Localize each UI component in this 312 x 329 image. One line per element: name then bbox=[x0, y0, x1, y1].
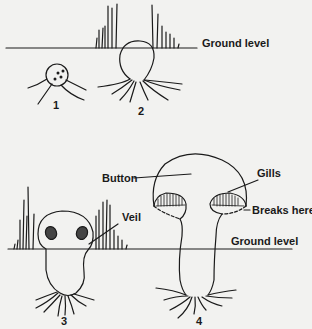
stage-2-pinhead bbox=[98, 41, 182, 102]
grass-right-top bbox=[152, 5, 179, 48]
grass-left-top bbox=[96, 4, 117, 48]
mushroom-development-diagram: Ground level Ground level Button Gills V… bbox=[0, 0, 312, 329]
button-label: Button bbox=[102, 173, 137, 184]
ground-level-label-bottom: Ground level bbox=[231, 236, 298, 247]
stage-number-4: 4 bbox=[196, 316, 202, 327]
grass-left-bottom bbox=[14, 187, 34, 249]
stage-1-primordium bbox=[28, 64, 86, 104]
button-leader-line bbox=[134, 174, 191, 178]
ground-level-label-top: Ground level bbox=[202, 38, 269, 49]
gills-leader-line bbox=[228, 180, 258, 192]
stage-3-young-fruiting-body bbox=[36, 211, 94, 316]
stage-number-1: 1 bbox=[53, 100, 59, 111]
gills-label: Gills bbox=[257, 168, 281, 179]
stage-number-2: 2 bbox=[138, 106, 144, 117]
diagram-drawing bbox=[0, 0, 312, 329]
breaks-here-label: Breaks here bbox=[252, 205, 312, 216]
grass-right-bottom bbox=[96, 200, 127, 249]
stage-number-3: 3 bbox=[61, 316, 67, 327]
veil-label: Veil bbox=[122, 212, 141, 223]
